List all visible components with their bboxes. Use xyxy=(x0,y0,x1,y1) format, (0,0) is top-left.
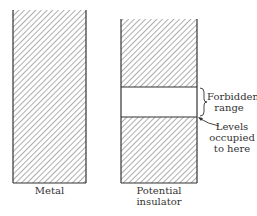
insulator-label-line1: Potential xyxy=(116,185,202,196)
levels-label-line3: to here xyxy=(208,143,256,154)
metal-band xyxy=(13,10,86,183)
levels-label-line2: occupied xyxy=(208,132,256,143)
forbidden-label-line2: range xyxy=(209,102,249,113)
forbidden-label-line1: Forbidden xyxy=(207,91,257,102)
forbidden-brace xyxy=(200,88,207,116)
upper-occupied-band xyxy=(121,19,197,87)
metal-label: Metal xyxy=(13,185,86,196)
insulator-band xyxy=(121,19,197,183)
lower-occupied-band xyxy=(121,117,197,183)
levels-label-line1: Levels xyxy=(208,121,256,132)
insulator-label-line2: insulator xyxy=(116,196,202,207)
